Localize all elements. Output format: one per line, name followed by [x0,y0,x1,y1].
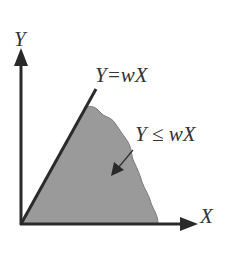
x-axis-label: X [200,206,213,227]
line-equation-label: Y=wX [95,65,148,86]
y-axis-label: Y [14,29,26,50]
region-inequality-label: Y ≤ wX [135,124,196,145]
x-axis-arrowhead [180,217,198,231]
diagram-canvas: Y X Y=wX Y ≤ wX [0,0,235,256]
